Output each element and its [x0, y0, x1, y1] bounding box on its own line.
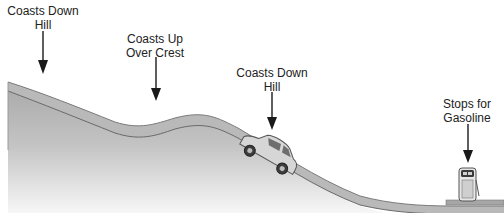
label-line: Over Crest — [126, 46, 184, 60]
label-coasts-down-hill-2: Coasts Down Hill — [236, 66, 307, 94]
label-coasts-up-over-crest: Coasts Up Over Crest — [126, 32, 184, 60]
arrow-down-icon — [151, 57, 161, 101]
label-coasts-down-hill: Coasts Down Hill — [7, 4, 78, 32]
arrow-down-icon — [38, 31, 48, 74]
gas-pump-icon — [459, 168, 479, 201]
arrow-down-icon — [267, 92, 277, 130]
diagram-scene: Coasts Down Hill Coasts Up Over Crest Co… — [0, 0, 504, 213]
label-line: Hill — [7, 18, 78, 32]
label-line: Coasts Down — [7, 4, 78, 18]
label-line: Gasoline — [443, 111, 491, 125]
label-line: Coasts Up — [126, 32, 184, 46]
label-line: Hill — [236, 80, 307, 94]
label-stops-for-gasoline: Stops for Gasoline — [443, 97, 491, 125]
arrow-down-icon — [463, 124, 473, 163]
label-line: Stops for — [443, 97, 491, 111]
label-line: Coasts Down — [236, 66, 307, 80]
